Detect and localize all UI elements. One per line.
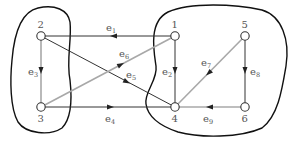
graph-diagram: e1 e2 e3 e4 e5 e6 e7 e8 e9 1 2 3 4 5 6 bbox=[0, 0, 296, 141]
node-2: 2 bbox=[37, 19, 45, 40]
edge-label-e3: e3 bbox=[28, 66, 38, 79]
edge-label-e9: e9 bbox=[203, 113, 213, 126]
edge-e8 bbox=[243, 36, 248, 107]
edge-e9 bbox=[175, 105, 245, 110]
edge-e4 bbox=[41, 105, 175, 110]
edge-label-e6: e6 bbox=[119, 48, 129, 61]
arrow-icon bbox=[243, 67, 248, 74]
arrow-icon bbox=[173, 67, 178, 74]
edge-e3 bbox=[39, 36, 44, 107]
node-1: 1 bbox=[171, 19, 179, 40]
arrow-icon bbox=[206, 105, 213, 110]
node-label-5: 5 bbox=[242, 19, 248, 30]
arrow-icon bbox=[39, 67, 44, 74]
edge-e2 bbox=[173, 36, 178, 107]
node-6: 6 bbox=[241, 103, 249, 124]
edge-e7 bbox=[175, 36, 245, 107]
edge-label-e2: e2 bbox=[162, 66, 172, 79]
edge-label-e8: e8 bbox=[250, 66, 260, 79]
node-4: 4 bbox=[171, 103, 179, 124]
node-label-3: 3 bbox=[38, 113, 44, 124]
arrow-icon bbox=[117, 63, 124, 69]
arrow-icon bbox=[107, 105, 114, 110]
node-3: 3 bbox=[37, 103, 45, 124]
edge-label-e7: e7 bbox=[201, 57, 211, 70]
node-label-1: 1 bbox=[172, 19, 178, 30]
node-label-2: 2 bbox=[38, 19, 44, 30]
node-label-4: 4 bbox=[172, 113, 178, 124]
edge-label-e5: e5 bbox=[126, 69, 136, 82]
edge-e1 bbox=[41, 34, 175, 39]
edge-label-e4: e4 bbox=[105, 113, 115, 126]
node-5: 5 bbox=[241, 19, 249, 40]
node-label-6: 6 bbox=[242, 113, 248, 124]
edge-label-e1: e1 bbox=[106, 22, 116, 35]
